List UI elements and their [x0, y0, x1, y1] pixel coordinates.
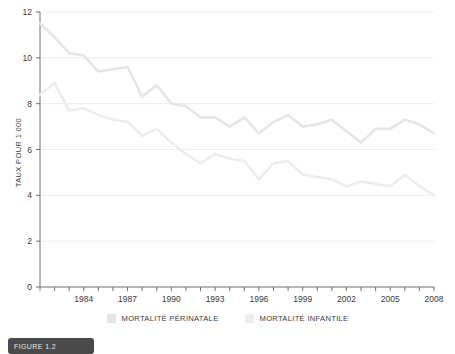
- y-tick-label: 0: [27, 282, 32, 292]
- grid-lines: [40, 12, 434, 241]
- x-tick-label: 2008: [425, 294, 444, 304]
- series-line-perinatale: [40, 23, 434, 142]
- figure-caption-badge: FIGURE 1.2: [8, 338, 94, 354]
- legend-label-perinatale: MORTALITÉ PÉRINATALE: [122, 314, 219, 323]
- y-tick-label: 10: [23, 53, 33, 63]
- x-tick-label: 1984: [74, 294, 93, 304]
- legend-item-infantile: MORTALITÉ INFANTILE: [245, 314, 349, 323]
- figure-caption-text: FIGURE 1.2: [14, 343, 56, 350]
- y-tick-label: 6: [27, 145, 32, 155]
- series-lines: [40, 23, 434, 195]
- y-tick-label: 12: [23, 7, 33, 17]
- x-axis-ticks: 198419871990199319961999200220052008: [40, 287, 444, 304]
- y-tick-label: 8: [27, 99, 32, 109]
- legend-label-infantile: MORTALITÉ INFANTILE: [260, 314, 349, 323]
- x-tick-label: 2005: [381, 294, 400, 304]
- x-tick-label: 1999: [293, 294, 312, 304]
- y-axis-ticks: 024681012: [23, 7, 40, 292]
- chart-plot-area: 024681012 198419871990199319961999200220…: [0, 0, 455, 310]
- series-line-infantile: [40, 83, 434, 195]
- y-axis-title: TAUX POUR 1 000: [14, 83, 23, 223]
- y-tick-label: 2: [27, 236, 32, 246]
- x-tick-label: 1993: [206, 294, 225, 304]
- x-tick-label: 2002: [337, 294, 356, 304]
- line-chart-svg: 024681012 198419871990199319961999200220…: [0, 0, 455, 310]
- x-tick-label: 1996: [249, 294, 268, 304]
- legend-swatch-infantile: [245, 314, 254, 323]
- legend-item-perinatale: MORTALITÉ PÉRINATALE: [107, 314, 219, 323]
- chart-legend: MORTALITÉ PÉRINATALE MORTALITÉ INFANTILE: [0, 314, 455, 323]
- legend-swatch-perinatale: [107, 314, 116, 323]
- x-tick-label: 1990: [162, 294, 181, 304]
- y-tick-label: 4: [27, 190, 32, 200]
- x-tick-label: 1987: [118, 294, 137, 304]
